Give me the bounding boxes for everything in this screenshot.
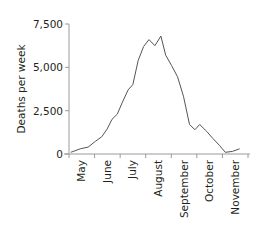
y-axis-label: Deaths per week	[15, 44, 27, 134]
x-month-label: October	[203, 159, 215, 202]
x-month-label: November	[229, 159, 241, 214]
line-chart: Deaths per week 02,5005,0007,500 MayJune…	[0, 0, 261, 225]
y-tick-label: 0	[56, 148, 63, 160]
y-tick-label: 7,500	[33, 18, 63, 30]
y-tick-label: 2,500	[33, 105, 63, 117]
y-tick-label: 5,000	[33, 61, 63, 73]
x-month-label: May	[75, 160, 87, 182]
x-month-label: August	[152, 160, 164, 197]
x-month-label: July	[126, 160, 138, 180]
deaths-series-line	[71, 36, 240, 152]
x-axis-ticks: MayJuneJulyAugustSeptemberOctoberNovembe…	[69, 154, 248, 218]
x-month-label: June	[101, 160, 113, 184]
x-month-label: September	[178, 159, 190, 218]
y-axis-ticks: 02,5005,0007,500	[33, 18, 69, 160]
